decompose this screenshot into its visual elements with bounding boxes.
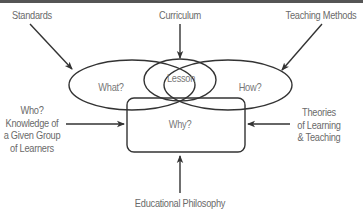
label-who-line-2: Knowledge of xyxy=(0,117,65,130)
label-theories-line-3: & Teaching xyxy=(290,131,348,144)
label-who-line-1: Who? xyxy=(0,104,65,117)
arrow-standards xyxy=(30,24,72,69)
what-ellipse xyxy=(69,60,195,110)
label-curriculum: Curriculum xyxy=(152,9,208,22)
label-theories-line-2: of Learning xyxy=(290,119,348,132)
label-standards: Standards xyxy=(6,9,59,22)
node-how: How? xyxy=(239,81,262,93)
label-who-line-4: of Learners xyxy=(0,142,65,155)
label-theories: Theories of Learning & Teaching xyxy=(290,106,348,144)
node-what: What? xyxy=(98,81,123,93)
arrow-teaching-methods xyxy=(282,24,322,70)
node-why: Why? xyxy=(169,118,192,130)
label-who-line-3: a Given Group xyxy=(0,129,65,142)
label-who: Who? Knowledge of a Given Group of Learn… xyxy=(0,104,65,154)
node-lesson: Lesson xyxy=(167,72,195,84)
label-theories-line-1: Theories xyxy=(290,106,348,119)
how-ellipse xyxy=(164,60,292,110)
label-educational-philosophy: Educational Philosophy xyxy=(125,197,234,210)
label-teaching-methods: Teaching Methods xyxy=(283,9,359,22)
